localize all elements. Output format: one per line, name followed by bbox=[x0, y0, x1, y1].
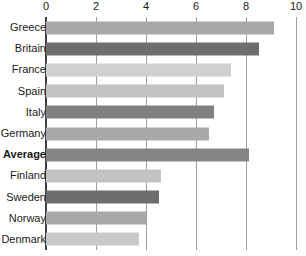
bar bbox=[46, 21, 274, 34]
bar-track bbox=[46, 233, 296, 246]
category-label: Britain bbox=[0, 42, 46, 55]
category-label: Greece bbox=[0, 21, 46, 34]
x-tick-label: 10 bbox=[290, 0, 302, 13]
bar-track bbox=[46, 127, 296, 140]
category-label: Denmark bbox=[0, 233, 46, 246]
bar-track bbox=[46, 21, 296, 34]
bar-track bbox=[46, 169, 296, 182]
bar bbox=[46, 169, 161, 182]
bar-row: Italy bbox=[0, 102, 306, 123]
bar-track bbox=[46, 106, 296, 119]
x-tick-label: 2 bbox=[93, 0, 99, 13]
bar-row: France bbox=[0, 59, 306, 80]
x-tick-label: 8 bbox=[243, 0, 249, 13]
bar-chart: 0246810 GreeceBritainFranceSpainItalyGer… bbox=[0, 0, 306, 256]
bar bbox=[46, 106, 214, 119]
bar bbox=[46, 233, 139, 246]
category-label: Germany bbox=[0, 127, 46, 140]
category-label: Finland bbox=[0, 169, 46, 182]
bar bbox=[46, 148, 249, 161]
x-tick-label: 0 bbox=[43, 0, 49, 13]
bar-row: Denmark bbox=[0, 229, 306, 250]
bar-row: Sweden bbox=[0, 187, 306, 208]
bar-rows: GreeceBritainFranceSpainItalyGermanyAver… bbox=[0, 17, 306, 250]
category-label: Average bbox=[0, 148, 46, 161]
bar-track bbox=[46, 148, 296, 161]
bar-track bbox=[46, 42, 296, 55]
category-label: Spain bbox=[0, 85, 46, 98]
bar-track bbox=[46, 191, 296, 204]
bar-track bbox=[46, 63, 296, 76]
bar bbox=[46, 212, 146, 225]
bar bbox=[46, 127, 209, 140]
category-label: Italy bbox=[0, 106, 46, 119]
bar-row: Finland bbox=[0, 165, 306, 186]
bar-row: Average bbox=[0, 144, 306, 165]
bar bbox=[46, 42, 259, 55]
bar bbox=[46, 85, 224, 98]
bar-row: Greece bbox=[0, 17, 306, 38]
x-tick-label: 6 bbox=[193, 0, 199, 13]
bar-row: Britain bbox=[0, 38, 306, 59]
bar bbox=[46, 191, 159, 204]
category-label: Norway bbox=[0, 212, 46, 225]
category-label: France bbox=[0, 63, 46, 76]
bar bbox=[46, 63, 231, 76]
bar-track bbox=[46, 85, 296, 98]
bar-row: Spain bbox=[0, 81, 306, 102]
plot-area: GreeceBritainFranceSpainItalyGermanyAver… bbox=[0, 17, 306, 254]
x-axis-tick-labels: 0246810 bbox=[0, 0, 306, 17]
bar-row: Norway bbox=[0, 208, 306, 229]
category-label: Sweden bbox=[0, 191, 46, 204]
x-tick-label: 4 bbox=[143, 0, 149, 13]
bar-track bbox=[46, 212, 296, 225]
bar-row: Germany bbox=[0, 123, 306, 144]
